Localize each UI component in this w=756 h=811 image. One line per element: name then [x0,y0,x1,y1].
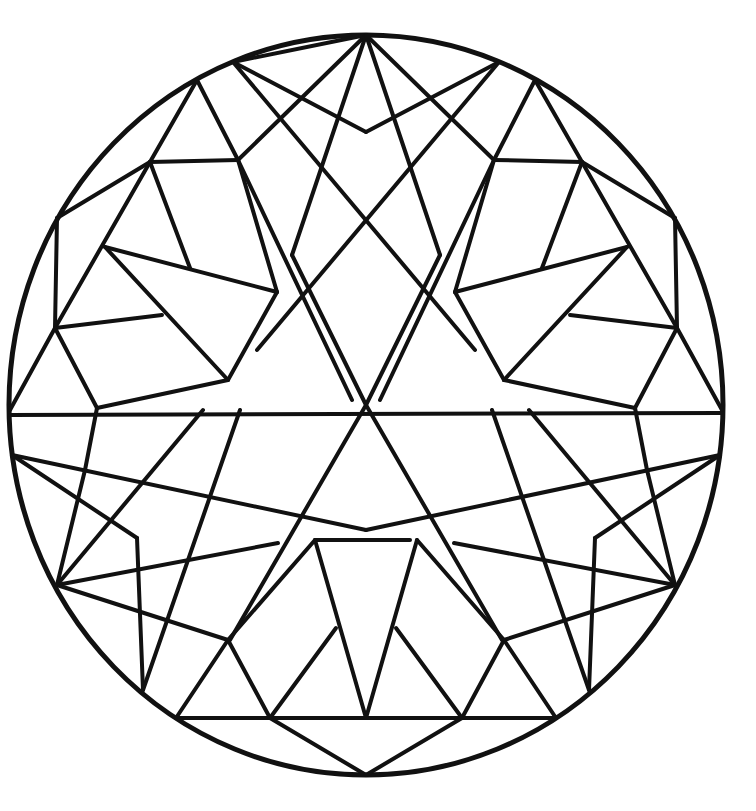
mandala-drawing [0,0,756,811]
mandala-line [97,380,228,408]
mandala-line [150,160,238,162]
mandala-line [55,162,150,328]
mandala-lines [10,35,722,775]
mandala-line [150,162,190,268]
mandala-line [504,247,627,380]
mandala-line [55,218,57,328]
mandala-line [396,628,462,718]
mandala-line [494,160,582,162]
mandala-line [228,540,315,640]
mandala-line [366,255,440,405]
mandala-line [230,405,366,640]
mandala-line [380,160,494,400]
mandala-line [366,540,417,718]
mandala-line [10,413,721,415]
mandala-line [85,408,97,470]
mandala-line [238,160,352,400]
mandala-line [542,162,582,268]
mandala-line [635,408,647,470]
mandala-line [454,543,675,585]
mandala-line [635,328,677,408]
mandala-line [105,247,228,380]
mandala-line [504,380,635,408]
mandala-line [455,247,627,292]
mandala-line [55,315,162,328]
mandala-line [292,255,366,405]
mandala-line [143,410,240,690]
mandala-line [492,410,589,690]
mandala-line [417,540,504,640]
mandala-line [462,640,504,718]
mandala-line [55,328,97,408]
mandala-line [228,640,270,718]
mandala-line [105,247,277,292]
mandala-line [270,628,336,718]
mandala-line [675,218,677,328]
mandala-line [57,543,278,585]
mandala-line [494,80,535,160]
mandala-line [366,405,502,640]
mandala-line [504,640,556,718]
mandala-line [582,162,677,328]
mandala-line [197,80,238,160]
mandala-line [176,640,228,718]
mandala-line [570,315,677,328]
mandala-line [315,540,366,718]
